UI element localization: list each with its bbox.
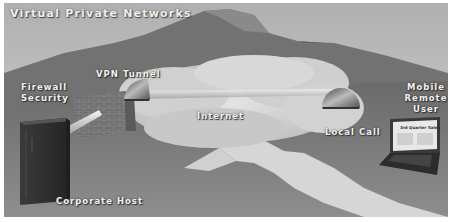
label-internet: Internet bbox=[197, 111, 244, 121]
label-remote: Remote bbox=[404, 93, 448, 103]
label-security: Security bbox=[21, 93, 69, 103]
label-corporate-host: Corporate Host bbox=[56, 196, 143, 206]
corporate-host-server bbox=[20, 118, 70, 205]
diagram-artwork bbox=[4, 3, 448, 217]
label-firewall: Firewall bbox=[21, 82, 67, 92]
label-user: User bbox=[404, 104, 448, 114]
label-vpn-tunnel: VPN Tunnel bbox=[96, 69, 161, 79]
label-mobile: Mobile bbox=[404, 82, 448, 92]
label-local-call: Local Call bbox=[325, 127, 381, 137]
vpn-diagram: Virtual Private Networks VPN Tunnel Fire… bbox=[4, 3, 448, 217]
diagram-title: Virtual Private Networks bbox=[10, 9, 192, 19]
laptop-screen-title: 3rd Quarter Sales bbox=[400, 125, 440, 130]
